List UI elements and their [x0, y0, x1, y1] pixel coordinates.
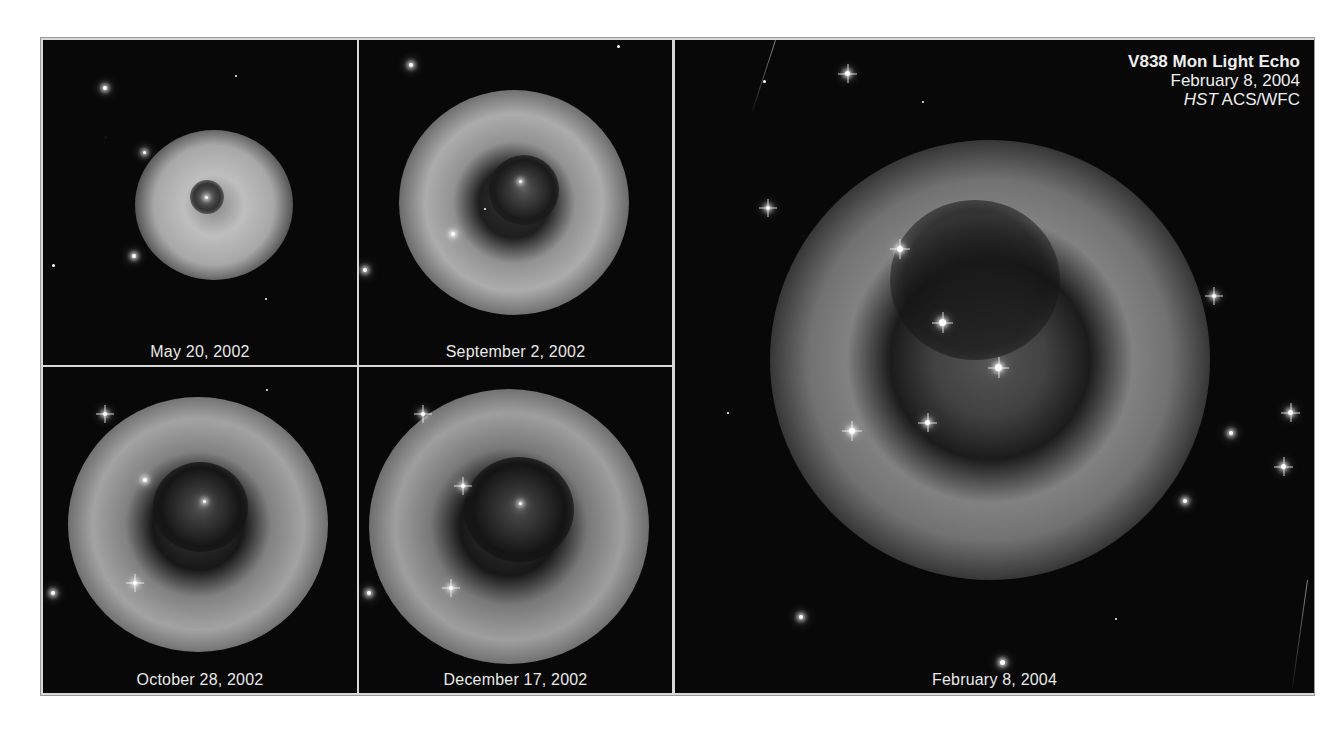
- instrument-suffix: ACS/WFC: [1218, 90, 1300, 109]
- star: [763, 80, 766, 83]
- star: [265, 298, 267, 300]
- instrument-prefix: HST: [1184, 90, 1218, 109]
- star: [103, 86, 107, 90]
- nebula-cavity: [489, 155, 559, 225]
- panel-sep-2002: September 2, 2002: [359, 40, 672, 365]
- star: [727, 412, 729, 414]
- figure-date: February 8, 2004: [1128, 71, 1300, 90]
- star: [925, 420, 930, 425]
- star: [143, 478, 147, 482]
- star: [103, 412, 107, 416]
- panel-caption: October 28, 2002: [43, 671, 357, 689]
- panel-caption: May 20, 2002: [43, 343, 357, 361]
- star: [1115, 618, 1117, 620]
- light-echo-figure: May 20, 2002 September 2, 2002 October 2…: [40, 37, 1315, 696]
- panel-may-2002: May 20, 2002: [43, 40, 357, 365]
- star: [1212, 294, 1216, 298]
- star: [52, 264, 55, 267]
- figure-title: V838 Mon Light Echo: [1128, 52, 1300, 71]
- central-star: [519, 180, 522, 183]
- star: [421, 412, 425, 416]
- star: [133, 581, 137, 585]
- star: [451, 232, 455, 236]
- star: [1229, 431, 1233, 435]
- star: [363, 268, 367, 272]
- panel-caption: September 2, 2002: [359, 343, 672, 361]
- star: [1288, 410, 1293, 415]
- star: [461, 484, 465, 488]
- panel-feb-2004: V838 Mon Light Echo February 8, 2004 HST…: [675, 40, 1314, 693]
- central-star: [203, 500, 206, 503]
- central-star: [519, 502, 522, 505]
- star: [266, 389, 268, 391]
- star: [766, 206, 770, 210]
- star: [897, 246, 903, 252]
- figure-title-block: V838 Mon Light Echo February 8, 2004 HST…: [1128, 52, 1300, 109]
- star: [939, 319, 946, 326]
- star: [132, 254, 136, 258]
- star: [845, 71, 850, 76]
- central-star-v838-mon: [995, 364, 1002, 371]
- star: [367, 591, 371, 595]
- star: [51, 591, 55, 595]
- nebula-cavity: [464, 457, 574, 562]
- central-star: [205, 196, 208, 199]
- star: [1281, 464, 1286, 469]
- figure-instrument: HST ACS/WFC: [1128, 90, 1300, 109]
- star: [1183, 499, 1187, 503]
- panel-oct-2002: October 28, 2002: [43, 367, 357, 693]
- star: [235, 75, 237, 77]
- star: [799, 615, 803, 619]
- star: [143, 151, 146, 154]
- star: [849, 428, 855, 434]
- star: [617, 45, 620, 48]
- star: [922, 101, 924, 103]
- star: [409, 63, 413, 67]
- star: [484, 208, 486, 210]
- panel-caption: February 8, 2004: [675, 671, 1314, 689]
- star: [1000, 660, 1005, 665]
- nebula-cavity: [890, 200, 1060, 360]
- star: [449, 586, 453, 590]
- panel-dec-2002: December 17, 2002: [359, 367, 672, 693]
- nebula-cavity: [153, 462, 248, 552]
- panel-caption: December 17, 2002: [359, 671, 672, 689]
